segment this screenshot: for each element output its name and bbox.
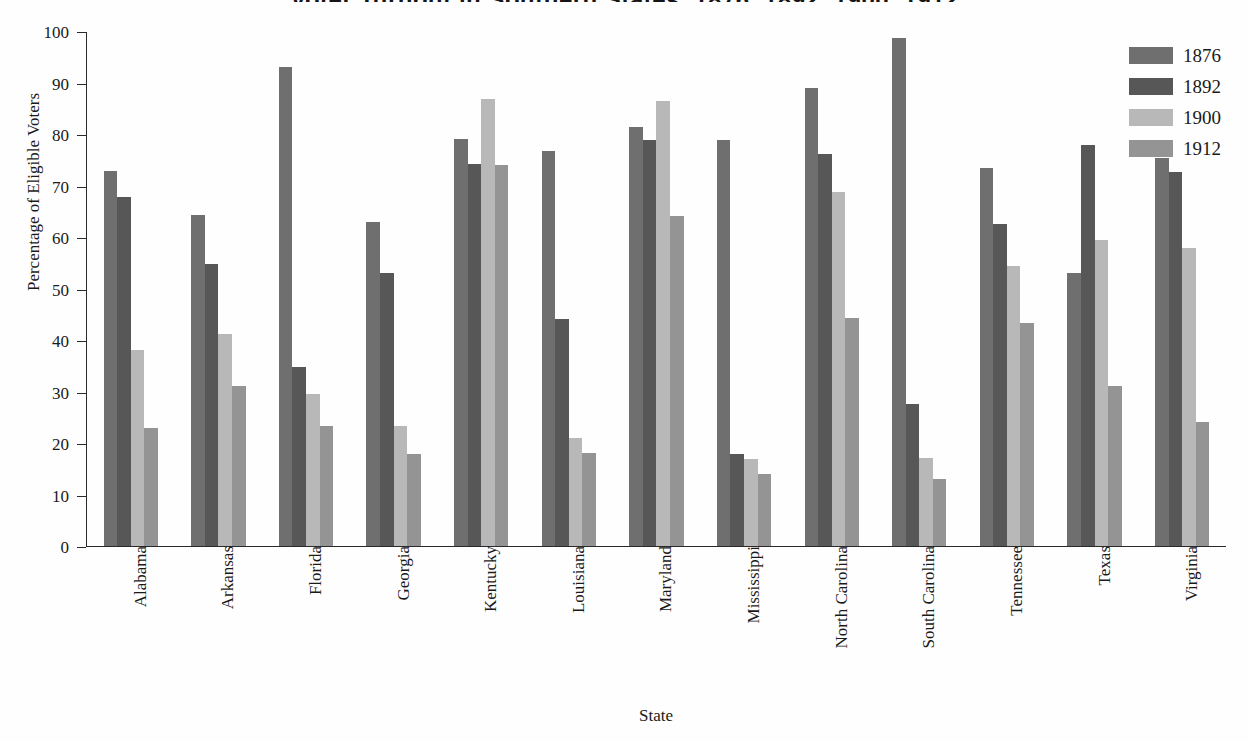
bar[interactable] — [1155, 158, 1169, 546]
bar-group-bars — [542, 32, 596, 546]
bar[interactable] — [656, 101, 670, 546]
y-axis-tick-label: 40 — [23, 333, 69, 350]
legend-item[interactable]: 1900 — [1129, 104, 1241, 130]
y-axis-tick — [77, 32, 86, 33]
y-axis-tick-label: 90 — [23, 75, 69, 92]
bar[interactable] — [818, 154, 832, 546]
bar-chart-figure: Voter Turnout in Southern States, 1876, … — [0, 0, 1249, 741]
bar[interactable] — [1020, 323, 1034, 546]
bar[interactable] — [320, 426, 334, 546]
y-axis-tick-label: 70 — [23, 178, 69, 195]
x-axis-tick-label-text: North Carolina — [832, 546, 852, 662]
bar-group: Kentucky — [437, 32, 525, 546]
bar[interactable] — [1108, 386, 1122, 546]
y-axis-tick — [77, 135, 86, 136]
bar[interactable] — [582, 453, 596, 546]
y-axis-tick-label: 60 — [23, 230, 69, 247]
bar[interactable] — [117, 197, 131, 546]
x-axis-tick-label-text: Kentucky — [481, 546, 501, 626]
legend-item[interactable]: 1912 — [1129, 135, 1241, 161]
y-axis-tick — [77, 341, 86, 342]
bar[interactable] — [805, 88, 819, 546]
bar[interactable] — [1095, 240, 1109, 546]
bar[interactable] — [980, 168, 994, 546]
bar[interactable] — [1007, 266, 1021, 546]
x-axis-tick-label: Mississippi — [744, 546, 764, 637]
bar[interactable] — [104, 171, 118, 546]
bar-group-bars — [454, 32, 508, 546]
y-axis-tick-label: 10 — [23, 487, 69, 504]
bar[interactable] — [1182, 248, 1196, 546]
bar[interactable] — [832, 192, 846, 546]
bar[interactable] — [643, 140, 657, 546]
bar[interactable] — [717, 140, 731, 546]
bar[interactable] — [993, 224, 1007, 546]
bar[interactable] — [279, 67, 293, 546]
bar[interactable] — [407, 454, 421, 546]
legend-swatch — [1129, 109, 1173, 126]
bar-group-bars — [980, 32, 1034, 546]
x-axis-tick-label: North Carolina — [832, 546, 852, 662]
bar[interactable] — [306, 394, 320, 546]
bar[interactable] — [380, 273, 394, 546]
x-axis-tick-label: South Carolina — [919, 546, 939, 662]
bar[interactable] — [555, 319, 569, 546]
bar[interactable] — [1067, 273, 1081, 546]
bar-group: Louisiana — [525, 32, 613, 546]
bar[interactable] — [1169, 172, 1183, 546]
bar[interactable] — [1081, 145, 1095, 546]
x-axis-tick-label: Florida — [306, 546, 326, 609]
x-axis-tick-label-text: Mississippi — [744, 546, 764, 637]
bar[interactable] — [919, 458, 933, 546]
bar[interactable] — [394, 426, 408, 546]
y-axis-tick — [77, 393, 86, 394]
bar[interactable] — [468, 164, 482, 546]
x-axis-tick-label: Alabama — [131, 546, 151, 621]
bar[interactable] — [892, 38, 906, 546]
bar[interactable] — [933, 479, 947, 546]
y-axis-tick-label: 0 — [23, 539, 69, 556]
bar[interactable] — [232, 386, 246, 546]
bar[interactable] — [144, 428, 158, 546]
y-axis-tick — [77, 290, 86, 291]
bar[interactable] — [744, 459, 758, 546]
x-axis-tick-label: Arkansas — [218, 546, 238, 623]
bar[interactable] — [481, 99, 495, 546]
bar[interactable] — [495, 165, 509, 546]
bar[interactable] — [454, 139, 468, 546]
bar[interactable] — [366, 222, 380, 546]
bar[interactable] — [542, 151, 556, 546]
bar[interactable] — [569, 438, 583, 546]
bar[interactable] — [131, 350, 145, 546]
y-axis-tick-label: 80 — [23, 127, 69, 144]
legend-swatch — [1129, 140, 1173, 157]
bar[interactable] — [1196, 422, 1210, 546]
bar-group: Maryland — [613, 32, 701, 546]
x-axis-tick-label-text: Texas — [1095, 546, 1115, 599]
y-axis-tick — [77, 187, 86, 188]
legend-item[interactable]: 1892 — [1129, 73, 1241, 99]
bar[interactable] — [730, 454, 744, 546]
y-axis-tick — [77, 84, 86, 85]
bar-group-bars — [191, 32, 245, 546]
x-axis-tick-label-text: South Carolina — [919, 546, 939, 662]
bar-group-bars — [366, 32, 420, 546]
x-axis-tick-label: Maryland — [656, 546, 676, 626]
x-axis-tick-label-text: Tennessee — [1007, 546, 1027, 630]
bar-group-bars — [629, 32, 683, 546]
bar[interactable] — [191, 215, 205, 546]
y-axis-tick — [77, 238, 86, 239]
bar[interactable] — [906, 404, 920, 546]
legend-item[interactable]: 1876 — [1129, 42, 1241, 68]
bar[interactable] — [670, 216, 684, 546]
y-axis-tick-label: 100 — [23, 24, 69, 41]
legend-label: 1900 — [1183, 108, 1221, 127]
legend-swatch — [1129, 78, 1173, 95]
bar[interactable] — [292, 367, 306, 546]
x-axis-tick-label-text: Florida — [306, 546, 326, 609]
bar[interactable] — [205, 264, 219, 546]
bar[interactable] — [845, 318, 859, 546]
bar[interactable] — [758, 474, 772, 546]
bar[interactable] — [629, 127, 643, 546]
bar[interactable] — [218, 334, 232, 546]
